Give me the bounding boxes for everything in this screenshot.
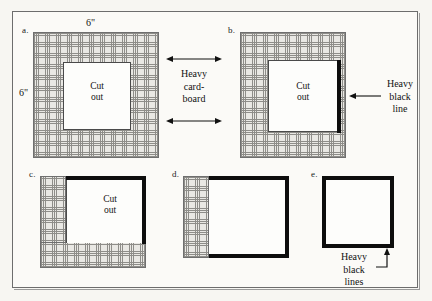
- panel-c-heavy-black-line-right: [142, 176, 146, 244]
- panel-d-cardboard-left: [183, 176, 209, 258]
- panel-a: Cut out: [33, 32, 159, 158]
- black-lines-elbow-arrow: [375, 248, 397, 272]
- black-line-text-line1: Heavy: [387, 78, 413, 89]
- cardboard-arrow-bottom: [166, 115, 222, 127]
- panel-e-heavy-black-line-top: [322, 176, 394, 180]
- black-lines-text-line2: black: [343, 264, 365, 275]
- panel-e-heavy-black-line-left: [322, 176, 326, 248]
- black-line-text-line3: line: [393, 103, 408, 114]
- panel-a-cutout-line2: out: [91, 92, 103, 102]
- panel-c: Cut out: [40, 176, 146, 268]
- panel-b-cutout-line2: out: [297, 92, 309, 102]
- panel-a-label: a.: [22, 25, 29, 35]
- panel-d-interior: [209, 176, 289, 258]
- panel-d-heavy-black-line-top: [209, 176, 289, 180]
- panel-b: Cut out: [240, 32, 346, 158]
- heavy-black-line-annotation: Heavy black line: [378, 78, 422, 116]
- panel-e-heavy-black-line-right: [390, 176, 394, 248]
- black-lines-text-line3: lines: [345, 276, 364, 287]
- panel-b-cutout-line1: Cut: [296, 81, 310, 91]
- panel-c-cutout-line1: Cut: [103, 194, 117, 204]
- figure-container: Cut out a. 6" 6" Heavy card- board Cut o…: [0, 0, 432, 301]
- panel-d: [183, 176, 289, 258]
- panel-e: [322, 176, 394, 248]
- panel-c-cardboard-bottom: [40, 242, 146, 268]
- panel-b-cutout-label: Cut out: [268, 81, 338, 103]
- panel-a-cutout-line1: Cut: [90, 81, 104, 91]
- panel-e-label: e.: [311, 169, 318, 179]
- cardboard-text-line2: card-: [184, 81, 205, 92]
- black-line-arrow: [349, 91, 381, 101]
- panel-c-heavy-black-line-top: [66, 176, 146, 180]
- panel-e-interior: [322, 176, 394, 248]
- dimension-top-label: 6": [86, 17, 95, 28]
- panel-c-cutout-line2: out: [104, 205, 116, 215]
- dimension-left-label: 6": [19, 87, 28, 98]
- panel-d-heavy-black-line-bottom: [209, 254, 289, 258]
- black-lines-text-line1: Heavy: [341, 251, 367, 262]
- panel-d-label: d.: [172, 169, 179, 179]
- heavy-black-lines-annotation: Heavy black lines: [330, 251, 378, 289]
- cardboard-text-line3: board: [183, 93, 206, 104]
- panel-d-heavy-black-line-right: [285, 176, 289, 258]
- heavy-cardboard-annotation: Heavy card- board: [160, 68, 228, 106]
- panel-a-cutout-label: Cut out: [63, 81, 131, 103]
- panel-c-cutout-label: Cut out: [80, 194, 140, 216]
- cardboard-text-line1: Heavy: [181, 68, 207, 79]
- panel-c-label: c.: [29, 169, 36, 179]
- cardboard-arrow-top: [166, 53, 222, 65]
- panel-b-label: b.: [228, 25, 235, 35]
- black-line-text-line2: black: [389, 91, 411, 102]
